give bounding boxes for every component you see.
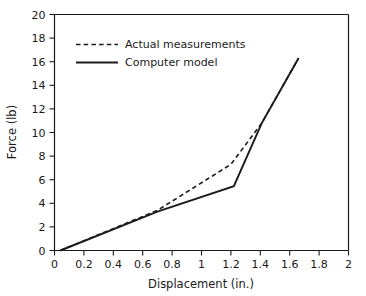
x-axis-ticks: 00.20.40.60.811.21.41.61.82	[51, 251, 352, 271]
y-axis-ticks: 02468101214161820	[32, 9, 55, 258]
y-tick-label: 0	[39, 245, 46, 258]
x-axis-title: Displacement (in.)	[148, 277, 254, 291]
chart-legend: Actual measurements Computer model	[76, 38, 246, 69]
y-axis-title: Force (lb)	[5, 105, 19, 159]
y-tick-label: 18	[32, 32, 46, 45]
x-tick-label: 1.8	[310, 258, 328, 271]
y-tick-label: 2	[39, 221, 46, 234]
chart-container: 02468101214161820 00.20.40.60.811.21.41.…	[0, 0, 366, 296]
x-tick-label: 2	[345, 258, 352, 271]
x-tick-label: 1	[198, 258, 205, 271]
x-tick-label: 0	[51, 258, 58, 271]
series-computer-model	[60, 58, 298, 250]
x-tick-label: 1.4	[252, 258, 270, 271]
x-tick-label: 0.8	[163, 258, 181, 271]
y-tick-label: 20	[32, 9, 46, 22]
x-tick-label: 0.2	[75, 258, 93, 271]
series-actual-measurements	[60, 58, 298, 250]
y-tick-label: 16	[32, 56, 46, 69]
force-displacement-chart: 02468101214161820 00.20.40.60.811.21.41.…	[0, 0, 366, 296]
x-tick-label: 0.4	[105, 258, 123, 271]
y-tick-label: 10	[32, 127, 46, 140]
x-tick-label: 1.2	[222, 258, 240, 271]
legend-label-actual-measurements: Actual measurements	[125, 38, 246, 51]
x-tick-label: 0.6	[134, 258, 152, 271]
x-tick-label: 1.6	[281, 258, 299, 271]
y-tick-label: 4	[39, 197, 46, 210]
legend-label-computer-model: Computer model	[125, 56, 217, 69]
y-tick-label: 12	[32, 103, 46, 116]
y-tick-label: 14	[32, 79, 46, 92]
y-tick-label: 6	[39, 174, 46, 187]
y-tick-label: 8	[39, 150, 46, 163]
plot-series	[60, 58, 298, 250]
